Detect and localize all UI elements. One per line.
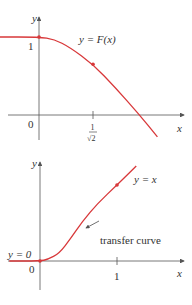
x-axis-label: x	[176, 267, 182, 279]
y-axis-label: y	[31, 12, 37, 24]
origin-label: 0	[29, 263, 35, 275]
chart-top: y x 0 1 1 √2 y = F(x)	[0, 12, 184, 143]
marked-point	[115, 183, 119, 187]
marked-point	[91, 63, 95, 67]
series-line	[0, 37, 157, 137]
y-tick-label: 1	[28, 40, 34, 52]
y-axis-label: y	[31, 157, 37, 169]
curve-label: y = x	[133, 173, 157, 185]
x-tick-label-num: 1	[91, 123, 95, 132]
curve-label: y = F(x)	[78, 33, 116, 46]
marked-point	[38, 259, 42, 263]
series-line	[9, 166, 136, 261]
x-axis-label: x	[176, 122, 182, 134]
origin-label: 0	[28, 118, 34, 130]
x-tick-label-den: √2	[87, 134, 95, 143]
left-label: y = 0	[7, 248, 32, 260]
marked-point	[37, 35, 41, 39]
annotation-label: transfer curve	[100, 234, 161, 246]
x-tick-label: 1	[114, 270, 120, 282]
figure: y x 0 1 1 √2 y = F(x) y x 0 1 y = x tran…	[0, 0, 192, 305]
annotation-pointer	[86, 221, 99, 228]
chart-bottom: y x 0 1 y = x transfer curve y = 0	[7, 157, 184, 290]
